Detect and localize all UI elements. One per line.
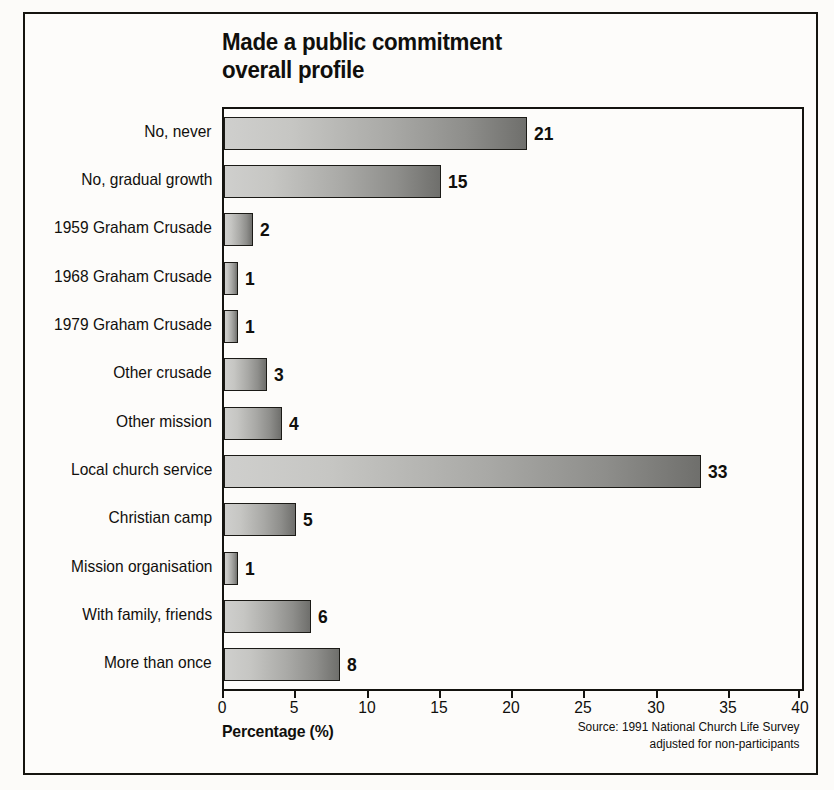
bar-value-label: 4 — [289, 414, 299, 433]
bar-row: 5 — [224, 496, 802, 544]
category-label: Christian camp — [30, 494, 212, 542]
bar — [224, 213, 253, 246]
bar-row: 4 — [224, 399, 802, 447]
category-axis-labels: No, neverNo, gradual growth1959 Graham C… — [30, 107, 212, 687]
x-axis-tick-label: 40 — [791, 698, 808, 718]
x-axis-tick — [367, 689, 369, 698]
bar — [224, 600, 311, 633]
bar-row: 1 — [224, 302, 802, 350]
bar — [224, 503, 296, 536]
source-line-2: adjusted for non-participants — [577, 736, 799, 753]
bar-value-label: 15 — [448, 172, 467, 191]
bar — [224, 165, 441, 198]
bars-layer: 211521134335168 — [224, 109, 802, 689]
bar — [224, 358, 267, 391]
category-label-text: Other crusade — [114, 363, 212, 382]
bar-value-label: 8 — [347, 655, 357, 674]
x-axis-tick — [728, 689, 730, 698]
category-label-text: No, gradual growth — [81, 170, 212, 189]
x-axis-tick-label: 5 — [290, 698, 299, 718]
bar — [224, 648, 340, 681]
bar-value-label: 6 — [318, 607, 328, 626]
category-label: Mission organisation — [30, 542, 212, 590]
x-axis-tick — [439, 689, 441, 698]
category-label-text: Other mission — [116, 412, 212, 431]
bar-row: 8 — [224, 641, 802, 689]
bar-row: 2 — [224, 206, 802, 254]
category-label-text: No, never — [145, 122, 212, 141]
bar-value-label: 1 — [245, 317, 255, 336]
category-label-text: Local church service — [71, 460, 212, 479]
x-axis-tick-label: 35 — [719, 698, 736, 718]
x-axis-tick — [656, 689, 658, 698]
x-axis-tick — [294, 689, 296, 698]
x-axis-tick-label: 15 — [430, 698, 447, 718]
title-line-1: Made a public commitment — [222, 28, 743, 56]
category-label: 1979 Graham Crusade — [30, 300, 212, 348]
title-line-2: overall profile — [222, 56, 743, 84]
bar-row: 3 — [224, 351, 802, 399]
x-axis-tick-label: 20 — [502, 698, 519, 718]
source-note: Source: 1991 National Church Life Survey… — [577, 719, 799, 752]
category-label-text: 1959 Graham Crusade — [54, 218, 212, 237]
bar-row: 33 — [224, 447, 802, 495]
x-axis-tick — [798, 689, 800, 698]
bar-row: 6 — [224, 592, 802, 640]
bar-value-label: 3 — [274, 365, 284, 384]
category-label-text: 1979 Graham Crusade — [54, 315, 212, 334]
bar — [224, 407, 282, 440]
category-label: No, gradual growth — [30, 155, 212, 203]
x-axis-tick — [583, 689, 585, 698]
bar-row: 21 — [224, 109, 802, 157]
x-axis-tick-label: 0 — [218, 698, 227, 718]
category-label-text: Christian camp — [109, 508, 212, 527]
category-label-text: With family, friends — [82, 605, 212, 624]
bar-row: 1 — [224, 254, 802, 302]
category-label: Other mission — [30, 397, 212, 445]
x-axis-tick-label: 25 — [575, 698, 592, 718]
category-label: With family, friends — [30, 590, 212, 638]
bar-row: 15 — [224, 157, 802, 205]
bar-value-label: 5 — [303, 510, 313, 529]
category-label: No, never — [30, 107, 212, 155]
source-line-1: Source: 1991 National Church Life Survey — [577, 719, 799, 736]
category-label-text: Mission organisation — [71, 557, 212, 576]
bar-value-label: 1 — [245, 269, 255, 288]
bar — [224, 117, 527, 150]
bar-value-label: 33 — [708, 462, 727, 481]
x-axis-tick — [222, 689, 224, 698]
chart-page: Made a public commitment overall profile… — [0, 0, 834, 790]
page-title: Made a public commitment overall profile — [222, 28, 743, 84]
bar — [224, 552, 238, 585]
bar-value-label: 2 — [260, 220, 270, 239]
category-label-text: 1968 Graham Crusade — [54, 267, 212, 286]
category-label-text: More than once — [104, 653, 212, 672]
bar-value-label: 1 — [245, 559, 255, 578]
bar-row: 1 — [224, 544, 802, 592]
plot-area: 211521134335168 — [222, 107, 804, 691]
category-label: 1959 Graham Crusade — [30, 204, 212, 252]
x-axis-tick-label: 30 — [647, 698, 664, 718]
x-axis-title: Percentage (%) — [222, 722, 334, 742]
x-axis-tick — [511, 689, 513, 698]
category-label: Local church service — [30, 445, 212, 493]
category-label: 1968 Graham Crusade — [30, 252, 212, 300]
bar-value-label: 21 — [534, 124, 553, 143]
bar — [224, 310, 238, 343]
category-label: Other crusade — [30, 349, 212, 397]
x-axis-tick-label: 10 — [358, 698, 375, 718]
category-label: More than once — [30, 639, 212, 687]
bar — [224, 455, 701, 488]
bar — [224, 262, 238, 295]
